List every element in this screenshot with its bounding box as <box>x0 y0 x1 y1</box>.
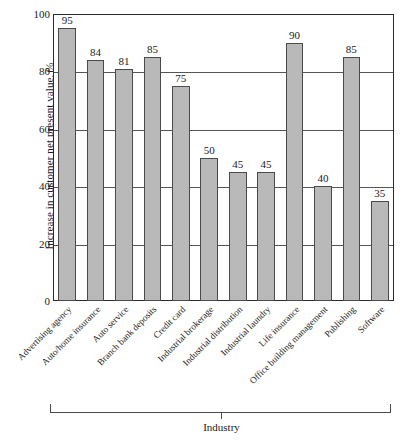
bar-value-label: 81 <box>103 56 145 67</box>
bar-group[interactable]: 45 <box>257 14 275 301</box>
bar-value-label: 95 <box>46 15 88 26</box>
bar[interactable] <box>172 86 190 301</box>
bar[interactable] <box>257 172 275 301</box>
x-axis-category-labels: Advertising agencyAuto/home insuranceAut… <box>0 301 406 401</box>
bar-group[interactable]: 75 <box>172 14 190 301</box>
y-tick-label-20: 20 <box>10 238 50 249</box>
x-axis-title: Industry <box>0 421 406 433</box>
bar-group[interactable]: 85 <box>144 14 162 301</box>
bar-value-label: 85 <box>331 44 373 55</box>
bar-value-label: 45 <box>245 159 287 170</box>
y-tick-label-60: 60 <box>10 123 50 134</box>
bar-group[interactable]: 45 <box>229 14 247 301</box>
bar[interactable] <box>286 43 304 301</box>
y-tick-label-100: 100 <box>10 9 50 20</box>
bar-value-label: 50 <box>188 145 230 156</box>
bar-group[interactable]: 40 <box>314 14 332 301</box>
bar-value-label: 35 <box>359 188 401 199</box>
bar[interactable] <box>58 28 76 301</box>
bar[interactable] <box>229 172 247 301</box>
bar-group[interactable]: 85 <box>343 14 361 301</box>
bar-group[interactable]: 81 <box>115 14 133 301</box>
bar-group[interactable]: 50 <box>200 14 218 301</box>
y-tick-label-80: 80 <box>10 66 50 77</box>
bar[interactable] <box>115 69 133 301</box>
bar-value-label: 85 <box>132 44 174 55</box>
bar-chart-figure: Increase in customer net present value, … <box>0 0 406 448</box>
bar[interactable] <box>314 186 332 301</box>
bar-value-label: 90 <box>274 30 316 41</box>
bar-group[interactable]: 90 <box>286 14 304 301</box>
bar-value-label: 40 <box>302 173 344 184</box>
bar-group[interactable]: 84 <box>87 14 105 301</box>
bar[interactable] <box>343 57 361 301</box>
bar[interactable] <box>144 57 162 301</box>
bar[interactable] <box>200 158 218 302</box>
bars-layer: 958481857550454590408535 <box>53 14 394 301</box>
bar-group[interactable]: 35 <box>371 14 389 301</box>
bracket-center-tick <box>221 412 222 419</box>
bar-group[interactable]: 95 <box>58 14 76 301</box>
bar-value-label: 75 <box>160 73 202 84</box>
x-axis-bracket <box>50 404 391 413</box>
bar[interactable] <box>87 60 105 301</box>
bar[interactable] <box>371 201 389 301</box>
y-tick-label-40: 40 <box>10 181 50 192</box>
